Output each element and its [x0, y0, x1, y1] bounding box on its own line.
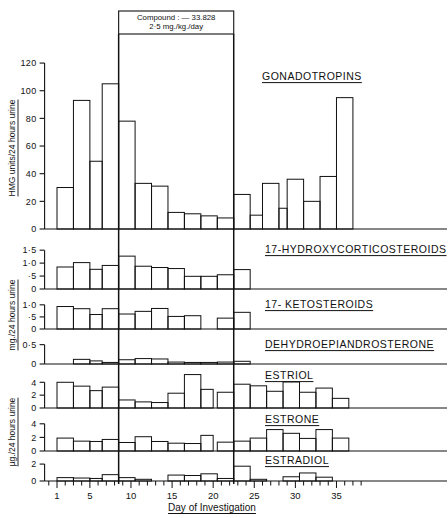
- chart-svg: Compound : — 33.8282·5 mg./kg./day020406…: [0, 0, 448, 518]
- bar: [152, 308, 168, 329]
- bar: [57, 267, 73, 289]
- y-axis-title-estrogens: µg./24 hours urine: [7, 397, 17, 466]
- bar: [332, 398, 348, 408]
- bar: [332, 438, 348, 451]
- y-tick-label: 80: [26, 114, 37, 124]
- bar: [299, 392, 315, 408]
- bar: [73, 100, 89, 229]
- bar: [102, 309, 118, 329]
- bar: [320, 176, 336, 229]
- bar: [119, 314, 135, 329]
- bar: [201, 216, 217, 229]
- bar: [234, 384, 250, 408]
- bar: [135, 183, 151, 229]
- bar: [102, 84, 118, 229]
- panel-title: ESTRONE: [265, 413, 319, 425]
- bar: [135, 311, 151, 329]
- bar: [73, 441, 89, 451]
- bar: [152, 359, 168, 364]
- panel-title: GONADOTROPINS: [262, 70, 362, 82]
- bar: [135, 479, 151, 481]
- y-tick-label: 120: [20, 58, 36, 68]
- bar: [90, 441, 102, 451]
- x-axis-title: Day of Investigation: [168, 502, 256, 513]
- bar: [168, 316, 184, 329]
- y-tick-label: 0: [31, 446, 36, 456]
- bar: [336, 98, 352, 229]
- bar: [234, 361, 250, 364]
- bar: [184, 316, 200, 329]
- bar: [234, 312, 250, 329]
- bar: [168, 475, 184, 481]
- bar: [267, 430, 283, 451]
- bar: [250, 438, 266, 451]
- bar: [184, 476, 200, 482]
- y-tick-label: 0: [31, 403, 36, 413]
- y-tick-label: ·5: [28, 312, 37, 322]
- bar: [152, 403, 168, 408]
- bar: [283, 433, 299, 451]
- bar: [184, 375, 200, 408]
- bar: [119, 443, 135, 452]
- bar: [234, 466, 250, 481]
- y-tick-label: 0: [31, 324, 36, 334]
- panel-title: ESTRIOL: [265, 369, 313, 381]
- bar: [234, 194, 250, 229]
- bar: [184, 362, 200, 364]
- bar: [217, 478, 233, 481]
- panel-title: 17-HYDROXYCORTICOSTEROIDS: [265, 243, 447, 255]
- bar: [90, 315, 102, 330]
- y-tick-label: 60: [26, 141, 37, 151]
- y-tick-label: 40: [26, 169, 37, 179]
- bar: [201, 362, 217, 364]
- bar: [152, 268, 168, 289]
- bar: [119, 121, 135, 229]
- bar: [250, 479, 266, 481]
- bar: [152, 441, 168, 451]
- bar: [57, 307, 73, 329]
- bar: [184, 444, 200, 451]
- bar: [102, 387, 118, 408]
- x-tick-label: 30: [290, 490, 301, 501]
- bar: [119, 360, 135, 364]
- y-tick-label: 2: [31, 459, 36, 469]
- bar: [217, 318, 233, 329]
- y-tick-label: 1·0: [22, 300, 36, 310]
- x-tick-label: 1: [54, 490, 59, 501]
- bar: [102, 265, 118, 289]
- bar: [217, 392, 233, 408]
- y-axis-title-gonadotropins: HMG units/24 hours urine: [7, 99, 17, 196]
- y-tick-label: 4: [31, 378, 36, 388]
- bar: [250, 215, 262, 229]
- bar: [152, 186, 168, 229]
- x-tick-label: 20: [208, 490, 219, 501]
- y-tick-label: 100: [20, 86, 36, 96]
- bar: [217, 218, 233, 229]
- bar: [119, 400, 135, 408]
- y-tick-label: 1·5: [22, 245, 36, 255]
- bar: [90, 269, 102, 289]
- x-tick-label: 5: [87, 490, 92, 501]
- y-tick-label: 0: [31, 476, 36, 486]
- y-tick-label: 20: [26, 197, 37, 207]
- bar: [304, 201, 320, 229]
- panel-title: DEHYDROEPIANDROSTERONE: [265, 338, 434, 350]
- bar: [184, 214, 200, 229]
- bar: [119, 256, 135, 289]
- panel-title: ESTRADIOL: [265, 454, 329, 466]
- bar: [73, 263, 89, 289]
- y-tick-label: 0·5: [22, 340, 36, 350]
- bar: [283, 382, 299, 408]
- bar: [135, 437, 151, 451]
- bar: [201, 276, 217, 289]
- panel-title: 17- KETOSTEROIDS: [265, 298, 373, 310]
- bar: [57, 382, 73, 408]
- bar: [316, 430, 332, 451]
- bar: [90, 361, 102, 364]
- y-tick-label: 0: [31, 359, 36, 369]
- bar: [73, 359, 89, 364]
- bar: [287, 179, 303, 229]
- bar: [135, 402, 151, 408]
- bar: [135, 266, 151, 289]
- bar: [217, 275, 233, 289]
